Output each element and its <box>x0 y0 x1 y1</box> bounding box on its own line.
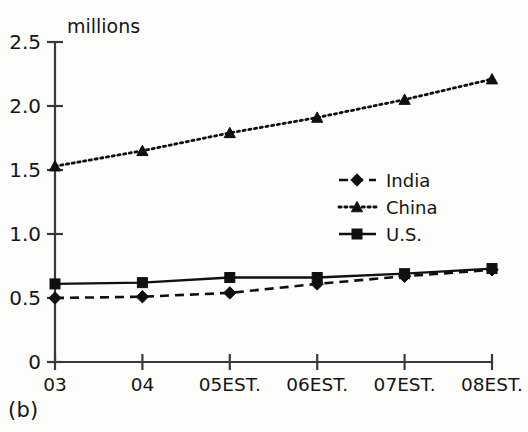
chart-series <box>49 74 498 305</box>
y-axis-unit-label: millions <box>67 15 140 37</box>
chart-legend: IndiaChinaU.S. <box>339 170 437 245</box>
legend-label: U.S. <box>386 224 422 245</box>
legend-label: India <box>386 170 430 191</box>
data-point-marker <box>50 279 60 289</box>
legend-label: China <box>386 197 437 218</box>
y-axis-tick-label: 2.5 <box>9 30 41 54</box>
series-china <box>49 74 497 171</box>
data-point-marker <box>400 269 410 279</box>
data-point-marker <box>487 264 497 274</box>
x-axis-tick-label: 03 <box>43 374 67 395</box>
x-axis-tick-label: 08EST. <box>461 374 523 395</box>
legend-marker-sample <box>352 229 362 239</box>
data-point-marker <box>49 292 61 304</box>
series-line <box>55 79 492 166</box>
y-axis-tick-label: 1.5 <box>9 158 41 182</box>
legend-marker-sample <box>351 174 363 186</box>
x-axis-tick-label: 06EST. <box>286 374 348 395</box>
x-axis-tick-label: 04 <box>131 374 155 395</box>
x-axis-tick-label: 07EST. <box>374 374 436 395</box>
data-point-marker <box>312 273 322 283</box>
data-point-marker <box>137 278 147 288</box>
chart-page: 00.51.01.52.02.5030405EST.06EST.07EST.08… <box>0 0 528 432</box>
series-us <box>50 264 497 289</box>
data-point-marker <box>225 273 235 283</box>
chart-axes: 00.51.01.52.02.5030405EST.06EST.07EST.08… <box>9 30 523 395</box>
y-axis-tick-label: 2.0 <box>9 94 41 118</box>
data-point-marker <box>224 287 236 299</box>
y-axis-tick-label: 0 <box>28 350 41 374</box>
line-chart: 00.51.01.52.02.5030405EST.06EST.07EST.08… <box>0 0 528 432</box>
data-point-marker <box>49 161 60 171</box>
legend-item-china[interactable]: China <box>339 197 437 218</box>
series-line <box>55 269 492 284</box>
figure-caption: (b) <box>8 398 39 422</box>
data-point-marker <box>136 291 148 303</box>
y-axis-tick-label: 1.0 <box>9 222 41 246</box>
legend-item-india[interactable]: India <box>339 170 430 191</box>
y-axis-tick-label: 0.5 <box>9 286 41 310</box>
legend-item-us[interactable]: U.S. <box>339 224 422 245</box>
x-axis-tick-label: 05EST. <box>199 374 261 395</box>
